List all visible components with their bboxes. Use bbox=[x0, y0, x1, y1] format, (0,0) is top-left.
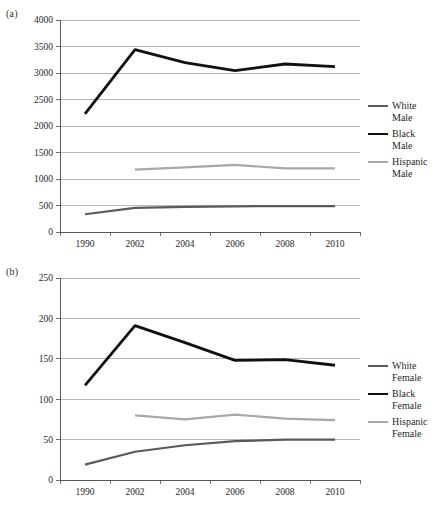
panel-a-legend: White MaleBlack MaleHispanic Male bbox=[368, 100, 428, 184]
y-tick-label: 4000 bbox=[34, 15, 53, 25]
chart-panel-b: (b) 050100150200250199020022004200620082… bbox=[0, 258, 447, 512]
x-tick-label: 2010 bbox=[326, 239, 345, 249]
legend-label: Hispanic Female bbox=[392, 416, 428, 439]
legend-swatch-icon bbox=[368, 421, 388, 423]
y-tick-label: 150 bbox=[39, 354, 54, 364]
y-tick-label: 2500 bbox=[34, 95, 53, 105]
legend-item-black-male: Black Male bbox=[368, 128, 428, 151]
series-line-hispanic-male bbox=[135, 165, 335, 170]
series-line-black-male bbox=[85, 50, 335, 114]
x-tick-label: 2004 bbox=[176, 487, 195, 497]
legend-item-black-female: Black Female bbox=[368, 388, 428, 411]
series-line-hispanic-female bbox=[135, 415, 335, 421]
x-tick-label: 2006 bbox=[226, 239, 245, 249]
y-tick-label: 200 bbox=[39, 314, 54, 324]
x-tick-label: 2004 bbox=[176, 239, 195, 249]
series-line-white-male bbox=[85, 206, 335, 214]
legend-label: Hispanic Male bbox=[392, 156, 428, 179]
x-tick-label: 1990 bbox=[76, 487, 95, 497]
y-tick-label: 1500 bbox=[34, 148, 53, 158]
y-tick-label: 250 bbox=[39, 273, 54, 283]
chart-panel-a: (a) 050010001500200025003000350040001990… bbox=[0, 0, 447, 256]
y-tick-label: 3000 bbox=[34, 68, 53, 78]
y-tick-label: 3500 bbox=[34, 42, 53, 52]
y-tick-label: 2000 bbox=[34, 121, 53, 131]
series-line-black-female bbox=[85, 326, 335, 386]
legend-label: Black Female bbox=[392, 388, 421, 411]
legend-swatch-icon bbox=[368, 161, 388, 163]
y-tick-label: 0 bbox=[48, 227, 53, 237]
legend-label: Black Male bbox=[392, 128, 415, 151]
y-tick-label: 50 bbox=[44, 435, 54, 445]
legend-item-white-female: White Female bbox=[368, 360, 428, 383]
y-tick-label: 500 bbox=[39, 201, 54, 211]
legend-label: White Female bbox=[392, 360, 421, 383]
legend-swatch-icon bbox=[368, 105, 388, 107]
y-tick-label: 1000 bbox=[34, 174, 53, 184]
x-tick-label: 2010 bbox=[326, 487, 345, 497]
legend-swatch-icon bbox=[368, 365, 388, 367]
legend-item-hispanic-male: Hispanic Male bbox=[368, 156, 428, 179]
x-tick-label: 2008 bbox=[276, 487, 295, 497]
legend-item-white-male: White Male bbox=[368, 100, 428, 123]
x-tick-label: 2006 bbox=[226, 487, 245, 497]
y-tick-label: 100 bbox=[39, 395, 54, 405]
x-tick-label: 1990 bbox=[76, 239, 95, 249]
panel-b-legend: White FemaleBlack FemaleHispanic Female bbox=[368, 360, 428, 444]
legend-swatch-icon bbox=[368, 133, 388, 135]
legend-swatch-icon bbox=[368, 393, 388, 395]
legend-item-hispanic-female: Hispanic Female bbox=[368, 416, 428, 439]
x-tick-label: 2002 bbox=[126, 487, 145, 497]
series-line-white-female bbox=[85, 440, 335, 465]
x-tick-label: 2002 bbox=[126, 239, 145, 249]
legend-label: White Male bbox=[392, 100, 416, 123]
y-tick-label: 0 bbox=[48, 475, 53, 485]
x-tick-label: 2008 bbox=[276, 239, 295, 249]
